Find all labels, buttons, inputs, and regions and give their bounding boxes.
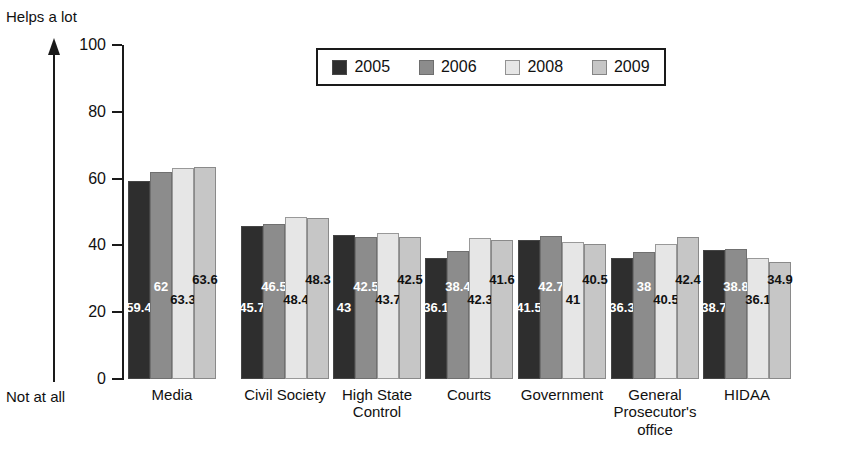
bar-value-label: 59.4 [126, 301, 151, 314]
category-label-line: Prosecutor's [595, 403, 715, 420]
bar-value-label: 43 [337, 301, 351, 314]
y-axis-tick-label: 20 [60, 304, 106, 320]
y-axis-tick [112, 311, 122, 313]
category-label-line: office [595, 421, 715, 438]
bar-value-label: 34.9 [767, 273, 792, 286]
bar-value-label: 36.1 [423, 301, 448, 314]
legend-item[interactable]: 2005 [332, 58, 390, 76]
x-axis-category-label: HIDAA [687, 386, 807, 403]
legend-label: 2009 [614, 58, 650, 76]
bar-value-label: 62 [154, 280, 168, 293]
bar-value-label: 43.7 [375, 293, 400, 306]
bar[interactable]: 36.3 [611, 258, 633, 379]
legend-swatch [419, 60, 434, 75]
bar[interactable]: 42.7 [540, 236, 562, 379]
bar[interactable]: 42.5 [355, 237, 377, 379]
bar-value-label: 38 [637, 280, 651, 293]
legend-item[interactable]: 2006 [419, 58, 477, 76]
bar-group: 41.542.74140.5 [518, 45, 606, 379]
y-axis-tick-labels: 020406080100 [56, 0, 106, 456]
bar-value-label: 38.7 [701, 301, 726, 314]
bar[interactable]: 63.3 [172, 168, 194, 379]
bar[interactable]: 38.8 [725, 249, 747, 379]
bar[interactable]: 38.7 [703, 250, 725, 379]
y-axis-tick-label: 40 [60, 237, 106, 253]
bar-value-label: 36.3 [609, 301, 634, 314]
bar-value-label: 48.4 [283, 293, 308, 306]
bar[interactable]: 40.5 [655, 244, 677, 379]
bar[interactable]: 36.1 [425, 258, 447, 379]
bar[interactable]: 45.7 [241, 226, 263, 379]
legend-item[interactable]: 2009 [592, 58, 650, 76]
bar-value-label: 45.7 [239, 301, 264, 314]
y-axis-tick [112, 44, 122, 46]
chart-legend: 2005200620082009 [316, 48, 666, 86]
x-axis-category-label: Media [112, 386, 232, 403]
bar[interactable]: 34.9 [769, 262, 791, 379]
y-axis-tick [112, 111, 122, 113]
bar-value-label: 38.4 [445, 280, 470, 293]
bar[interactable]: 43.7 [377, 233, 399, 379]
y-axis-tick-label: 60 [60, 171, 106, 187]
bar-value-label: 42.3 [467, 293, 492, 306]
bar-value-label: 48.3 [305, 273, 330, 286]
bar[interactable]: 42.5 [399, 237, 421, 379]
chart-page: Helps a lot Not at all 020406080100 59.4… [0, 0, 846, 456]
bar-value-label: 42.4 [675, 273, 700, 286]
legend-swatch [505, 60, 520, 75]
bar-value-label: 42.5 [397, 273, 422, 286]
bar-value-label: 40.5 [582, 273, 607, 286]
bar-value-label: 41 [566, 293, 580, 306]
bar[interactable]: 48.4 [285, 217, 307, 379]
legend-label: 2008 [527, 58, 563, 76]
bar-group: 36.138.442.341.6 [425, 45, 513, 379]
y-axis-tick [112, 378, 122, 380]
legend-label: 2005 [354, 58, 390, 76]
bar-group: 38.738.836.134.9 [703, 45, 791, 379]
bar[interactable]: 42.4 [677, 237, 699, 379]
bar[interactable]: 38.4 [447, 251, 469, 379]
bar-value-label: 63.6 [192, 273, 217, 286]
bar[interactable]: 38 [633, 252, 655, 379]
y-axis-tick-label: 80 [60, 104, 106, 120]
bar-value-label: 42.5 [353, 280, 378, 293]
bar-group: 36.33840.542.4 [611, 45, 699, 379]
bar-value-label: 36.1 [745, 293, 770, 306]
plot-area: 59.46263.363.645.746.548.448.34342.543.7… [122, 45, 834, 379]
legend-swatch [332, 60, 347, 75]
y-axis-tick [112, 244, 122, 246]
bar-value-label: 38.8 [723, 280, 748, 293]
bar[interactable]: 63.6 [194, 167, 216, 379]
bar[interactable]: 36.1 [747, 258, 769, 379]
legend-item[interactable]: 2008 [505, 58, 563, 76]
bar-group: 4342.543.742.5 [333, 45, 421, 379]
bar-value-label: 46.5 [261, 280, 286, 293]
bar[interactable]: 43 [333, 235, 355, 379]
bar-value-label: 41.6 [489, 273, 514, 286]
bar[interactable]: 48.3 [307, 218, 329, 379]
category-label-line: HIDAA [687, 386, 807, 403]
category-label-line: Media [112, 386, 232, 403]
bar[interactable]: 42.3 [469, 238, 491, 379]
y-axis-tick [112, 178, 122, 180]
bar-group: 45.746.548.448.3 [241, 45, 329, 379]
bar[interactable]: 41.6 [491, 240, 513, 379]
bar[interactable]: 59.4 [128, 181, 150, 379]
bar-group: 59.46263.363.6 [128, 45, 216, 379]
bar[interactable]: 62 [150, 172, 172, 379]
bar-value-label: 42.7 [538, 280, 563, 293]
y-axis-tick-label: 0 [60, 371, 106, 387]
bar[interactable]: 40.5 [584, 244, 606, 379]
bar[interactable]: 41 [562, 242, 584, 379]
legend-label: 2006 [441, 58, 477, 76]
y-axis-tick-label: 100 [60, 37, 106, 53]
category-label-line: Control [317, 403, 437, 420]
bar-value-label: 63.3 [170, 293, 195, 306]
bar[interactable]: 41.5 [518, 240, 540, 379]
bar-value-label: 40.5 [653, 293, 678, 306]
bar[interactable]: 46.5 [263, 224, 285, 379]
bar-value-label: 41.5 [516, 301, 541, 314]
legend-swatch [592, 60, 607, 75]
